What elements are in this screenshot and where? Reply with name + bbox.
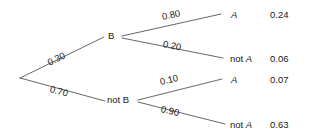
probability-tree-diagram: B not B 0.30 0.70 0.80 0.20 0.10 0.90 A … — [0, 0, 313, 138]
node-b: B — [108, 31, 114, 41]
branch-line-not-b-a — [138, 79, 222, 100]
joint-probability-4: 0.63 — [270, 120, 289, 130]
branch-line-not-b-not-a — [138, 102, 225, 124]
outcome-label-not-a-1: not A — [230, 54, 252, 64]
outcome-event: A — [246, 119, 252, 130]
outcome-label-not-a-2: not A — [230, 120, 252, 130]
node-not-b: not B — [107, 95, 129, 105]
joint-probability-2: 0.06 — [270, 54, 289, 64]
joint-probability-1: 0.24 — [270, 10, 289, 20]
outcome-prefix: not — [230, 53, 246, 64]
outcome-label-a-1: A — [231, 10, 237, 20]
outcome-event: A — [246, 53, 252, 64]
outcome-prefix: not — [230, 119, 246, 130]
joint-probability-3: 0.07 — [270, 75, 289, 85]
tree-branch-lines — [0, 0, 313, 138]
outcome-label-a-2: A — [231, 75, 237, 85]
